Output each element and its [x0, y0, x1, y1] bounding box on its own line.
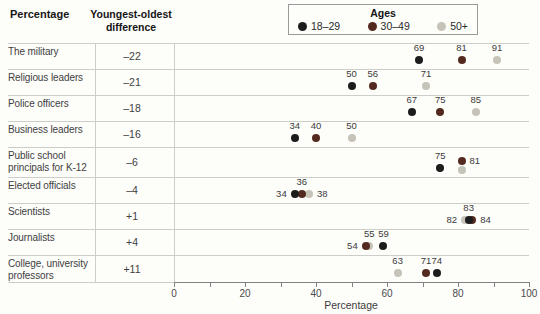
axis-tick: [316, 283, 317, 287]
difference-value: +4: [96, 236, 168, 248]
point-label: 50: [340, 121, 364, 131]
data-point-18-29: [348, 82, 356, 90]
row-separator: [8, 177, 529, 178]
data-point-30-49: [298, 190, 306, 198]
category-label: Journalists: [8, 232, 94, 244]
point-label: 63: [386, 256, 410, 266]
x-axis-title: Percentage: [301, 299, 401, 311]
data-point-30-49: [458, 56, 466, 64]
point-label: 74: [425, 256, 449, 266]
zero-gridline: [174, 43, 175, 282]
point-label: 36: [290, 177, 314, 187]
axis-tick: [423, 283, 424, 287]
point-label: 84: [480, 215, 504, 225]
row-separator: [8, 147, 529, 148]
axis-tick-label: 0: [159, 288, 189, 299]
point-label: 85: [464, 95, 488, 105]
category-label: Business leaders: [8, 124, 94, 136]
axis-tick: [281, 283, 282, 287]
point-label: 75: [428, 95, 452, 105]
data-point-50+: [394, 269, 402, 277]
difference-value: –4: [96, 184, 168, 196]
data-point-18-29: [465, 216, 473, 224]
difference-value: –6: [96, 156, 168, 168]
data-point-50+: [348, 134, 356, 142]
axis-tick: [494, 283, 495, 287]
point-label: 56: [361, 69, 385, 79]
data-point-18-29: [379, 242, 387, 250]
data-point-30-49: [312, 134, 320, 142]
point-label: 82: [433, 215, 457, 225]
confidence-by-age-chart: Percentage Youngest-oldest difference Ag…: [0, 0, 540, 314]
axis-tick-label: 40: [301, 288, 331, 299]
difference-value: –16: [96, 128, 168, 140]
axis-tick-label: 20: [230, 288, 260, 299]
data-point-30-49: [436, 108, 444, 116]
data-point-18-29: [291, 134, 299, 142]
row-separator: [8, 121, 529, 122]
category-label: Police officers: [8, 98, 94, 110]
point-label: 83: [457, 203, 481, 213]
point-label: 67: [400, 95, 424, 105]
axis-tick: [458, 283, 459, 287]
difference-value: –21: [96, 76, 168, 88]
axis-tick-label: 80: [443, 288, 473, 299]
data-point-50+: [305, 190, 313, 198]
data-point-18-29: [433, 269, 441, 277]
data-point-18-29: [415, 56, 423, 64]
point-label: 38: [317, 189, 341, 199]
axis-tick: [245, 283, 246, 287]
point-label: 34: [263, 189, 287, 199]
difference-value: +1: [96, 210, 168, 222]
category-label: Religious leaders: [8, 72, 94, 84]
data-point-30-49: [369, 82, 377, 90]
difference-value: –22: [96, 50, 168, 62]
category-label: Public school principals for K-12: [8, 150, 94, 173]
axis-tick: [387, 283, 388, 287]
point-label: 75: [428, 151, 452, 161]
row-separator: [8, 69, 529, 70]
axis-tick: [352, 283, 353, 287]
data-point-18-29: [436, 164, 444, 172]
row-separator: [8, 203, 529, 204]
difference-value: +11: [96, 263, 168, 275]
axis-tick: [529, 283, 530, 287]
axis-tick: [210, 283, 211, 287]
category-label: Elected officials: [8, 180, 94, 192]
axis-tick-label: 100: [514, 288, 540, 299]
axis-tick: [174, 283, 175, 287]
point-label: 81: [470, 156, 494, 166]
category-label: College, university professors: [8, 258, 94, 281]
column-divider: [95, 43, 96, 282]
point-label: 69: [407, 43, 431, 53]
data-point-50+: [422, 82, 430, 90]
point-label: 71: [414, 69, 438, 79]
data-point-50+: [493, 56, 501, 64]
axis-tick-label: 60: [372, 288, 402, 299]
plot-area: The military–22698191Religious leaders–2…: [0, 0, 540, 314]
point-label: 54: [334, 241, 358, 251]
data-point-18-29: [408, 108, 416, 116]
difference-value: –18: [96, 102, 168, 114]
row-separator: [8, 229, 529, 230]
row-separator: [8, 255, 529, 256]
point-label: 91: [485, 43, 509, 53]
point-label: 59: [371, 229, 395, 239]
data-point-30-49: [362, 242, 370, 250]
point-label: 81: [450, 43, 474, 53]
data-point-50+: [458, 166, 466, 174]
data-point-18-29: [291, 190, 299, 198]
point-label: 40: [304, 121, 328, 131]
category-label: The military: [8, 46, 94, 58]
data-point-30-49: [422, 269, 430, 277]
data-point-30-49: [458, 157, 466, 165]
category-label: Scientists: [8, 206, 94, 218]
data-point-50+: [472, 108, 480, 116]
